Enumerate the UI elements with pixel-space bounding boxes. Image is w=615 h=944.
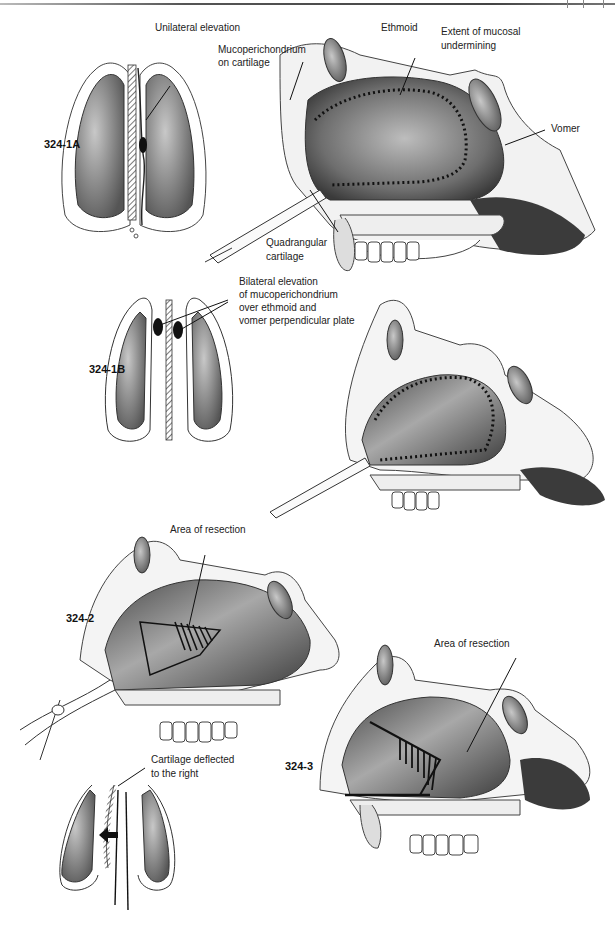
label-ethmoid: Ethmoid [381,22,418,34]
label-quadrangular-1: Quadrangular [266,237,327,249]
label-bilateral-3: over ethmoid and [239,302,316,314]
label-extent-2: undermining [441,40,496,52]
sagittal-view-1b [270,300,605,518]
figure-number-324-3: 324-3 [285,760,313,772]
label-extent-1: Extent of mucosal [441,26,520,38]
label-mucoperichondrium-1: Mucoperichondrium [218,44,306,56]
surgical-illustrations [0,0,615,944]
label-bilateral-4: vomer perpendicular plate [239,315,355,327]
label-area-of-resection-3: Area of resection [434,638,510,650]
label-bilateral-1: Bilateral elevation [239,276,318,288]
label-bilateral-2: of mucoperichondrium [239,289,338,301]
label-vomer: Vomer [551,123,580,135]
sagittal-view-3 [320,645,590,855]
figure-number-324-2: 324-2 [66,612,94,624]
figure-number-324-1b: 324-1B [89,363,125,375]
label-quadrangular-2: cartilage [266,251,304,263]
label-cartilage-deflected-2: to the right [151,768,198,780]
coronal-view-deflected [60,768,175,910]
figure-number-324-1a: 324-1A [44,138,80,150]
sagittal-view-2 [20,537,339,760]
label-cartilage-deflected-1: Cartilage deflected [151,754,234,766]
label-unilateral-elevation: Unilateral elevation [155,22,240,34]
label-area-of-resection-2: Area of resection [170,524,246,536]
sagittal-view-1a [205,36,595,270]
coronal-view-1a [62,63,206,238]
label-mucoperichondrium-2: on cartilage [218,57,270,69]
